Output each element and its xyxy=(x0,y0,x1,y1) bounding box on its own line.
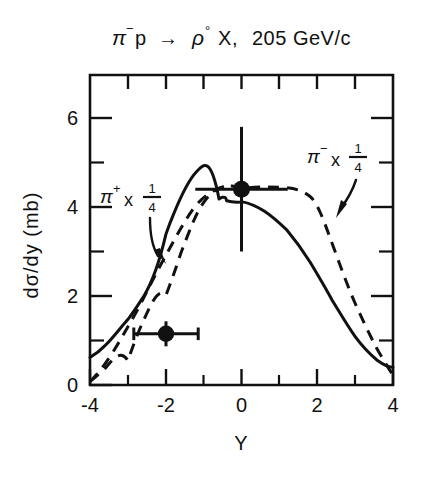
title-arrow: → xyxy=(158,27,179,49)
anno-pi-plus-frac-denominator: 4 xyxy=(148,200,155,215)
title-inclusive: X xyxy=(218,27,232,49)
annotation-pi-minus: π − x 1 4 xyxy=(307,141,367,218)
anno-pi-plus-charge: + xyxy=(113,181,121,196)
title-comma: , xyxy=(232,27,238,49)
x-axis-label: Y xyxy=(234,432,248,454)
anno-pi-minus-charge: − xyxy=(320,141,328,156)
title-pi-charge: − xyxy=(126,21,134,36)
figure-page: π − p → ρ ° X , 205 GeV/c xyxy=(0,0,444,477)
y-tick-labels: 0 2 4 6 xyxy=(67,107,78,396)
title-pi-symbol: π xyxy=(112,26,127,49)
anno-pi-minus-symbol: π xyxy=(307,146,321,167)
x-tick-label-1: -2 xyxy=(157,394,175,416)
anno-pi-plus-symbol: π xyxy=(100,186,114,207)
anno-pi-minus-times: x xyxy=(331,150,340,170)
anno-pi-minus-frac-denominator: 4 xyxy=(354,160,361,175)
x-axis-ticks-bottom xyxy=(90,369,393,385)
annotation-pi-plus: π + x 1 4 xyxy=(100,181,166,264)
title-target: p xyxy=(135,27,147,49)
data-marker-point-2 xyxy=(233,181,250,198)
title-rho-symbol: ρ xyxy=(191,26,204,49)
anno-pi-minus-frac-numerator: 1 xyxy=(354,141,361,156)
anno-pi-plus-frac-numerator: 1 xyxy=(148,181,155,196)
chart-title: π − p → ρ ° X , 205 GeV/c xyxy=(112,21,351,49)
x-axis-ticks-top xyxy=(128,75,355,89)
x-tick-label-2: 0 xyxy=(236,394,247,416)
chart-figure: π − p → ρ ° X , 205 GeV/c xyxy=(0,0,444,477)
x-tick-label-3: 2 xyxy=(311,394,322,416)
y-axis-ticks-left xyxy=(90,118,112,385)
data-point-error-bars xyxy=(134,127,288,346)
y-tick-label-2: 4 xyxy=(67,196,78,218)
x-tick-label-0: -4 xyxy=(81,394,99,416)
x-tick-labels: -4 -2 0 2 4 xyxy=(81,394,398,416)
y-tick-label-3: 6 xyxy=(67,107,78,129)
title-rho-charge: ° xyxy=(205,23,210,38)
y-axis-ticks-right xyxy=(371,118,393,341)
data-marker-point-1 xyxy=(158,326,174,342)
y-tick-label-1: 2 xyxy=(67,285,78,307)
title-momentum: 205 GeV/c xyxy=(252,27,351,49)
anno-pi-plus-times: x xyxy=(124,190,133,210)
x-tick-label-4: 4 xyxy=(387,394,398,416)
y-tick-label-0: 0 xyxy=(67,374,78,396)
y-axis-label: dσ/dy (mb) xyxy=(20,192,42,299)
